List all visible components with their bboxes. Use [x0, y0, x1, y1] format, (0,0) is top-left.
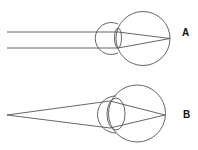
eye-a-outline — [95, 12, 170, 66]
panel-b: B — [7, 85, 190, 142]
label-b: B — [183, 109, 190, 120]
rays-b — [7, 101, 165, 128]
label-a: A — [182, 27, 189, 38]
eyeball-b — [109, 85, 166, 142]
panel-a: A — [7, 12, 189, 66]
rays-a — [7, 32, 170, 48]
eye-diagram: A B — [0, 0, 198, 150]
lens-a — [115, 28, 122, 48]
eye-b-outline — [98, 85, 166, 142]
eyeball-a — [116, 12, 170, 66]
